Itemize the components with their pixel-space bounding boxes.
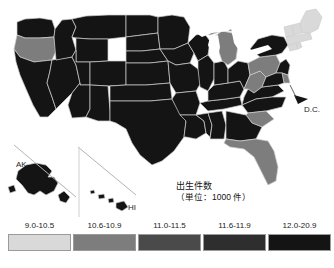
inset-divider-hawaii bbox=[78, 147, 136, 195]
alaska-label: AK bbox=[16, 160, 27, 169]
legend-item-3[interactable]: 11.6-11.9 bbox=[203, 221, 266, 251]
dc-leader-line bbox=[290, 85, 296, 97]
legend-label-2: 11.0-11.5 bbox=[138, 221, 201, 231]
legend-item-2[interactable]: 11.0-11.5 bbox=[138, 221, 201, 251]
state-WA[interactable] bbox=[17, 18, 55, 38]
state-HI[interactable] bbox=[90, 190, 128, 211]
state-FL[interactable] bbox=[224, 139, 278, 185]
state-ID[interactable] bbox=[54, 19, 76, 60]
legend: 9.0-10.510.6-10.911.0-11.511.6-11.912.0-… bbox=[0, 221, 334, 268]
legend-item-0[interactable]: 9.0-10.5 bbox=[8, 221, 71, 251]
legend-swatch-3 bbox=[203, 234, 266, 251]
alaska-inset bbox=[8, 145, 76, 203]
state-KS[interactable] bbox=[126, 61, 170, 85]
dc-label: D.C. bbox=[304, 105, 320, 114]
legend-label-0: 9.0-10.5 bbox=[8, 221, 71, 231]
contiguous-states bbox=[14, 9, 322, 185]
map-title-unit: （単位：1000 件） bbox=[176, 192, 251, 203]
map-figure: AK HI D.C. 出生件数 （単位：1000 件） 9.0-10.510.6… bbox=[0, 0, 334, 268]
state-WY[interactable] bbox=[76, 38, 108, 62]
legend-swatch-4 bbox=[268, 234, 331, 251]
state-TX[interactable] bbox=[110, 99, 186, 165]
legend-swatch-2 bbox=[138, 234, 201, 251]
state-ME[interactable] bbox=[300, 9, 322, 33]
dc-pointer bbox=[290, 85, 308, 104]
legend-item-1[interactable]: 10.6-10.9 bbox=[73, 221, 136, 251]
lake-michigan bbox=[208, 35, 220, 57]
state-OK[interactable] bbox=[110, 83, 172, 101]
state-IN[interactable] bbox=[214, 61, 228, 85]
hawaii-label: HI bbox=[128, 203, 136, 212]
legend-label-3: 11.6-11.9 bbox=[203, 221, 266, 231]
us-map-svg bbox=[0, 5, 334, 217]
state-CO[interactable] bbox=[90, 61, 126, 86]
legend-swatch-1 bbox=[73, 234, 136, 251]
legend-item-4[interactable]: 12.0-20.9 bbox=[268, 221, 331, 251]
state-AK[interactable] bbox=[8, 163, 70, 203]
legend-label-1: 10.6-10.9 bbox=[73, 221, 136, 231]
map-title-block: 出生件数 （単位：1000 件） bbox=[176, 181, 251, 203]
map-title-line1: 出生件数 bbox=[176, 181, 251, 192]
legend-label-4: 12.0-20.9 bbox=[268, 221, 331, 231]
state-IL[interactable] bbox=[198, 55, 214, 91]
choropleth-map: AK HI D.C. bbox=[0, 5, 334, 217]
state-MT[interactable] bbox=[72, 15, 126, 39]
state-MO[interactable] bbox=[168, 61, 202, 93]
legend-swatch-0 bbox=[8, 234, 71, 251]
